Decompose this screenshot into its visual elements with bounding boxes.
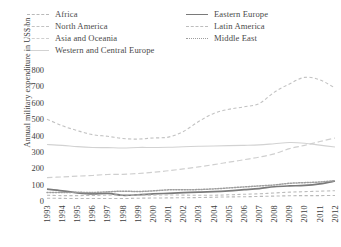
x-tick-label: 2003 <box>194 205 203 223</box>
x-tick-label: 2000 <box>149 205 158 223</box>
x-tick-label: 1994 <box>58 205 67 223</box>
x-tick-label: 2006 <box>240 205 249 223</box>
x-tick-label: 2012 <box>331 205 340 223</box>
x-tick-label: 1997 <box>103 205 112 223</box>
series-line-africa <box>47 195 335 198</box>
chart-container: AfricaNorth AmericaAsia and OceaniaWeste… <box>0 0 341 247</box>
x-tick-label: 1995 <box>73 205 82 223</box>
series-lines <box>47 70 335 201</box>
plot-area <box>47 70 335 201</box>
series-line-western-and-central-europe <box>47 143 335 148</box>
x-tick-label: 2001 <box>164 205 173 223</box>
x-tick-label: 2004 <box>210 205 219 223</box>
x-tick-label: 1996 <box>88 205 97 223</box>
x-tick-label: 1999 <box>134 205 143 223</box>
x-tick-label: 1998 <box>119 205 128 223</box>
x-tick-label: 2009 <box>285 205 294 223</box>
series-line-north-america <box>47 77 335 139</box>
series-line-asia-and-oceania <box>47 138 335 178</box>
x-tick-label: 2002 <box>179 205 188 223</box>
x-tick-label: 2007 <box>255 205 264 223</box>
x-tick-label: 2005 <box>225 205 234 223</box>
x-tick-label: 1993 <box>43 205 52 223</box>
x-tick-label: 2008 <box>270 205 279 223</box>
x-tick-label: 2011 <box>316 205 325 222</box>
x-tick-label: 2010 <box>300 205 309 223</box>
